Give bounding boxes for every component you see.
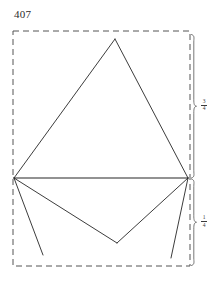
dashed-bounding-rectangle <box>13 31 190 266</box>
right-tail-line <box>171 178 188 258</box>
figure-container: 407 3 4 1 4 <box>0 0 216 282</box>
upper-fraction-numerator: 3 <box>198 99 210 105</box>
lower-fraction-denominator: 4 <box>198 222 210 228</box>
upper-dimension-brace <box>192 35 197 179</box>
lower-dimension-brace <box>192 179 197 266</box>
upper-triangle-right-side <box>115 39 188 178</box>
upper-fraction-denominator: 4 <box>198 106 210 112</box>
left-tail-line <box>14 178 43 255</box>
lower-fraction-numerator: 1 <box>198 215 210 221</box>
upper-triangle-left-side <box>14 39 115 178</box>
lower-dimension-fraction: 1 4 <box>198 215 210 228</box>
lower-fold-left-line <box>14 178 117 243</box>
upper-dimension-fraction: 3 4 <box>198 99 210 112</box>
lower-fold-right-line <box>117 178 188 243</box>
geometric-figure-drawing <box>0 0 216 282</box>
